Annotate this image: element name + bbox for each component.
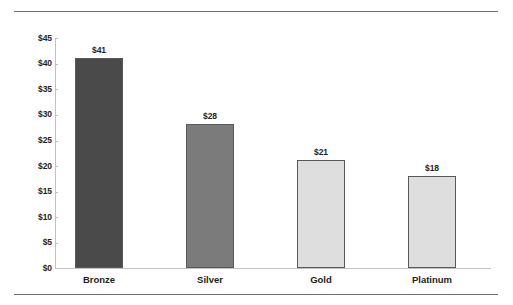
y-tick-mark xyxy=(55,141,58,142)
y-tick-label: $5 xyxy=(6,238,52,247)
y-tick-5: $5 xyxy=(0,238,52,247)
plot-area: $45 $40 $35 $30 $25 $20 $15 $10 xyxy=(0,0,513,305)
category-label-silver: Silver xyxy=(164,274,256,285)
y-tick-label: $35 xyxy=(6,85,52,94)
bar-chart-figure: $45 $40 $35 $30 $25 $20 $15 $10 xyxy=(0,0,513,305)
category-label-gold: Gold xyxy=(275,274,367,285)
y-tick-mark xyxy=(55,217,58,218)
y-tick-label: $40 xyxy=(6,59,52,68)
category-label-bronze: Bronze xyxy=(53,274,145,285)
y-tick-label: $20 xyxy=(6,162,52,171)
y-tick-mark xyxy=(55,89,58,90)
y-tick-mark xyxy=(55,115,58,116)
y-tick-35: $35 xyxy=(0,85,52,94)
y-tick-45: $45 xyxy=(0,34,52,43)
y-tick-mark xyxy=(55,38,58,39)
bar-value-label: $28 xyxy=(172,111,248,121)
bar-bronze[interactable] xyxy=(75,58,123,268)
category-label-platinum: Platinum xyxy=(386,274,478,285)
y-tick-15: $15 xyxy=(0,187,52,196)
bar-value-label: $18 xyxy=(394,163,470,173)
y-tick-label: $25 xyxy=(6,136,52,145)
y-tick-label: $0 xyxy=(6,264,52,273)
y-tick-mark xyxy=(55,192,58,193)
bar-silver[interactable] xyxy=(186,124,234,268)
y-tick-mark xyxy=(55,243,58,244)
y-tick-label: $30 xyxy=(6,110,52,119)
y-tick-25: $25 xyxy=(0,136,52,145)
y-tick-10: $10 xyxy=(0,213,52,222)
y-tick-30: $30 xyxy=(0,110,52,119)
y-tick-label: $15 xyxy=(6,187,52,196)
y-tick-mark xyxy=(55,166,58,167)
y-tick-20: $20 xyxy=(0,162,52,171)
y-tick-mark xyxy=(55,64,58,65)
y-axis-line xyxy=(55,38,56,269)
x-axis-line xyxy=(55,268,491,269)
bar-platinum[interactable] xyxy=(408,176,456,268)
bar-value-label: $21 xyxy=(283,147,359,157)
y-tick-label: $10 xyxy=(6,213,52,222)
y-tick-40: $40 xyxy=(0,59,52,68)
bar-gold[interactable] xyxy=(297,160,345,268)
y-tick-0: $0 xyxy=(0,264,52,273)
bar-value-label: $41 xyxy=(61,45,137,55)
y-tick-label: $45 xyxy=(6,34,52,43)
